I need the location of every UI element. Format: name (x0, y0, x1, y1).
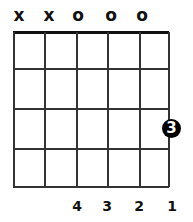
fret-line (13, 68, 169, 70)
string-line (76, 32, 78, 187)
finger-label: 1 (165, 198, 179, 214)
finger-label: 2 (132, 198, 146, 214)
string-line (44, 32, 46, 187)
finger-label: 3 (100, 198, 114, 214)
string-marker-muted: x (41, 6, 57, 24)
string-line (139, 32, 141, 187)
string-line (107, 32, 109, 187)
fret-line (13, 108, 169, 110)
string-marker-open: o (103, 6, 119, 24)
string-marker-open: o (134, 6, 150, 24)
fret-line (13, 186, 169, 188)
string-line (13, 32, 15, 187)
string-line (168, 32, 170, 187)
finger-dot: 3 (162, 119, 181, 138)
finger-label: 4 (70, 198, 84, 214)
string-marker-muted: x (11, 6, 27, 24)
string-marker-open: o (70, 6, 86, 24)
fret-line (13, 148, 169, 150)
nut (13, 31, 169, 34)
